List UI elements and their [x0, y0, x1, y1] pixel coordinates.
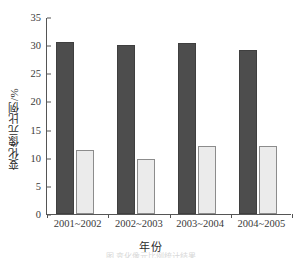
- x-tick-mark: [170, 214, 171, 218]
- y-tick-mark: [47, 186, 51, 187]
- bar: [117, 45, 135, 214]
- y-tick-label: 5: [36, 182, 47, 193]
- y-tick-mark: [47, 74, 51, 75]
- figure-caption: 图 变化像元比例统计结果: [0, 252, 301, 258]
- y-tick-label: 20: [31, 97, 48, 108]
- bar: [198, 146, 216, 214]
- y-tick-label: 35: [31, 13, 48, 24]
- bar: [239, 50, 257, 214]
- x-tick-label: 2004~2005: [238, 219, 286, 230]
- plot-area: 05101520253035 2001~20022002~20032003~20…: [46, 18, 291, 215]
- bar: [178, 43, 196, 214]
- x-tick-label: 2001~2002: [54, 219, 102, 230]
- x-tick-mark: [231, 214, 232, 218]
- bar: [137, 159, 155, 214]
- bar: [76, 150, 94, 214]
- y-tick-mark: [47, 18, 51, 19]
- bar: [56, 42, 74, 214]
- x-tick-label: 2003~2004: [176, 219, 224, 230]
- y-tick-label: 0: [36, 210, 47, 221]
- x-tick-mark: [292, 214, 293, 218]
- y-tick-label: 30: [31, 41, 48, 52]
- y-axis-title: 变化像元比例/%: [6, 88, 22, 170]
- y-tick-mark: [47, 46, 51, 47]
- x-tick-label: 2002~2003: [115, 219, 163, 230]
- y-tick-mark: [47, 130, 51, 131]
- y-tick-label: 15: [31, 125, 48, 136]
- y-tick-mark: [47, 102, 51, 103]
- y-tick-label: 25: [31, 69, 48, 80]
- y-tick-mark: [47, 158, 51, 159]
- bar: [259, 146, 277, 214]
- x-tick-mark: [47, 214, 48, 218]
- bar-chart: 变化像元比例/% 05101520253035 2001~20022002~20…: [0, 0, 301, 258]
- y-tick-label: 10: [31, 153, 48, 164]
- x-tick-mark: [108, 214, 109, 218]
